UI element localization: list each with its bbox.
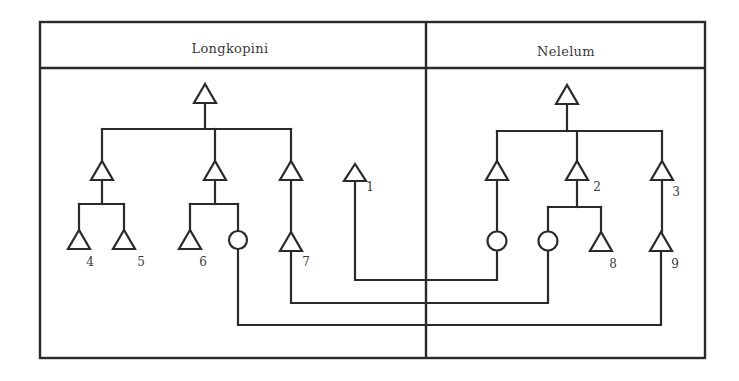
male-triangle-icon [344, 164, 366, 181]
female-circle-icon [488, 232, 507, 251]
node-label-5: 5 [137, 255, 145, 269]
male-triangle-icon [486, 161, 508, 180]
male-triangle-icon [68, 230, 90, 249]
marriage-connectors [238, 180, 661, 325]
male-triangle-icon [91, 161, 113, 180]
male-triangle-icon [650, 232, 672, 251]
longkopini-lineage: 4 5 6 7 1 [68, 84, 374, 269]
male-triangle-icon [566, 161, 588, 180]
node-label-9: 9 [671, 257, 679, 271]
male-triangle-icon [204, 161, 226, 180]
male-triangle-icon [179, 230, 201, 249]
nelelum-lineage: 2 3 8 9 [486, 85, 680, 271]
panel-title-nelelum: Nelelum [537, 44, 595, 59]
node-label-4: 4 [86, 255, 94, 269]
node-label-6: 6 [199, 255, 207, 269]
marriage-line-7 [291, 250, 548, 303]
male-triangle-icon [280, 161, 302, 180]
male-triangle-icon [280, 232, 302, 251]
kinship-diagram: Longkopini Nelelum 4 5 6 7 1 [0, 0, 739, 381]
male-triangle-icon [113, 230, 135, 249]
node-label-8: 8 [609, 257, 617, 271]
male-triangle-icon [556, 85, 578, 104]
node-label-7: 7 [302, 255, 310, 269]
male-triangle-icon [651, 161, 673, 180]
female-circle-icon [229, 231, 247, 249]
male-triangle-icon [590, 232, 612, 251]
node-label-2: 2 [593, 180, 601, 194]
male-triangle-icon [194, 84, 216, 103]
panel-title-longkopini: Longkopini [192, 41, 269, 56]
female-circle-icon [539, 232, 558, 251]
node-label-3: 3 [672, 185, 680, 199]
